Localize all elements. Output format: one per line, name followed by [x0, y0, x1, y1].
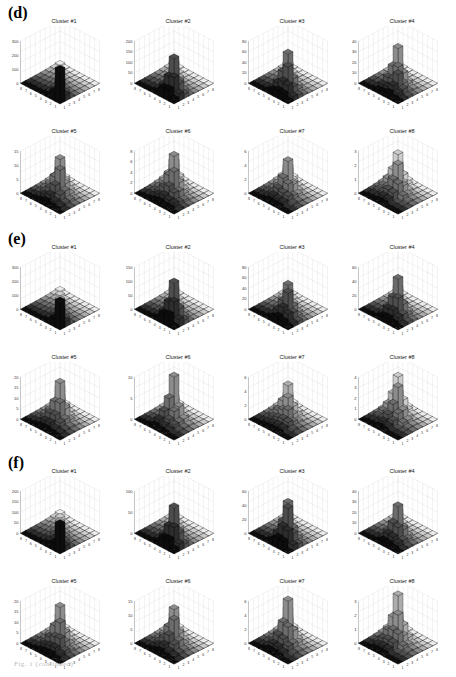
svg-text:1: 1 — [177, 106, 179, 110]
svg-text:2: 2 — [164, 102, 166, 106]
svg-text:5: 5 — [421, 205, 423, 209]
svg-text:5: 5 — [16, 630, 19, 635]
svg-text:1: 1 — [63, 216, 65, 220]
plot-title: Cluster #1 — [8, 468, 120, 474]
svg-text:2: 2 — [130, 180, 133, 185]
svg-text:8: 8 — [212, 198, 214, 202]
svg-text:5: 5 — [35, 544, 37, 548]
plot-e-cluster-2: Cluster #20501001501234567812345678 — [122, 244, 234, 348]
bar3d-chart: 01002003001234567812345678 — [8, 26, 120, 122]
svg-text:60: 60 — [242, 49, 247, 54]
svg-text:7: 7 — [321, 200, 323, 204]
svg-text:4: 4 — [78, 658, 80, 662]
svg-text:6: 6 — [144, 202, 146, 206]
svg-text:20: 20 — [14, 599, 19, 604]
bar3d-chart: 02461234567812345678 — [236, 136, 348, 232]
svg-text:0: 0 — [130, 191, 133, 196]
svg-text:0: 0 — [244, 531, 247, 536]
svg-text:1: 1 — [291, 666, 293, 670]
svg-text:2: 2 — [68, 553, 70, 557]
svg-text:3: 3 — [73, 661, 75, 665]
svg-text:2: 2 — [164, 438, 166, 442]
svg-text:8: 8 — [358, 87, 360, 91]
bar3d-chart: 024681234567812345678 — [122, 136, 234, 232]
svg-text:3: 3 — [411, 661, 413, 665]
svg-text:2: 2 — [50, 328, 52, 332]
svg-text:6: 6 — [88, 319, 90, 323]
svg-text:5: 5 — [373, 654, 375, 658]
svg-text:200: 200 — [12, 279, 19, 284]
svg-text:5: 5 — [263, 94, 265, 98]
svg-text:8: 8 — [436, 314, 438, 318]
svg-text:50: 50 — [14, 520, 19, 525]
svg-text:1: 1 — [169, 441, 171, 445]
svg-text:1: 1 — [283, 105, 285, 109]
svg-text:7: 7 — [93, 316, 95, 320]
svg-text:1: 1 — [291, 106, 293, 110]
svg-text:3: 3 — [187, 327, 189, 331]
svg-text:1: 1 — [354, 406, 357, 411]
plot-title: Cluster #5 — [8, 578, 120, 584]
svg-text:2: 2 — [164, 552, 166, 556]
svg-text:6: 6 — [88, 93, 90, 97]
svg-text:0: 0 — [16, 417, 19, 422]
svg-text:0: 0 — [130, 531, 133, 536]
svg-text:6: 6 — [258, 92, 260, 96]
svg-text:4: 4 — [416, 434, 418, 438]
svg-text:7: 7 — [93, 650, 95, 654]
svg-text:8: 8 — [326, 88, 328, 92]
svg-text:6: 6 — [316, 93, 318, 97]
bar3d-chart: 02040601234567812345678 — [346, 252, 456, 348]
plot-f-cluster-3: Cluster #302040601234567812345678 — [236, 468, 348, 572]
svg-text:4: 4 — [306, 98, 308, 102]
svg-text:6: 6 — [316, 319, 318, 323]
svg-text:2: 2 — [182, 103, 184, 107]
svg-text:4: 4 — [154, 97, 156, 101]
bar3d-chart: 02461234567812345678 — [236, 586, 348, 677]
svg-text:3: 3 — [301, 551, 303, 555]
plot-d-cluster-2: Cluster #20501001502001234567812345678 — [122, 18, 234, 122]
svg-text:7: 7 — [321, 316, 323, 320]
svg-text:0: 0 — [354, 641, 357, 646]
svg-text:6: 6 — [88, 543, 90, 547]
svg-text:3: 3 — [159, 100, 161, 104]
svg-text:7: 7 — [363, 315, 365, 319]
svg-text:6: 6 — [88, 203, 90, 207]
svg-text:6: 6 — [144, 92, 146, 96]
svg-text:4: 4 — [78, 434, 80, 438]
svg-text:7: 7 — [321, 650, 323, 654]
svg-text:5: 5 — [149, 544, 151, 548]
svg-text:4: 4 — [78, 324, 80, 328]
svg-text:0: 0 — [130, 417, 133, 422]
svg-text:8: 8 — [20, 197, 22, 201]
svg-text:2: 2 — [296, 553, 298, 557]
svg-text:3: 3 — [273, 436, 275, 440]
svg-text:8: 8 — [20, 537, 22, 541]
svg-text:5: 5 — [35, 654, 37, 658]
svg-text:2: 2 — [50, 438, 52, 442]
svg-text:2: 2 — [406, 553, 408, 557]
svg-text:0: 0 — [244, 307, 247, 312]
svg-text:1: 1 — [393, 215, 395, 219]
plot-f-cluster-8: Cluster #801231234567812345678 — [346, 578, 456, 677]
svg-text:1: 1 — [63, 442, 65, 446]
svg-text:8: 8 — [98, 314, 100, 318]
svg-text:8: 8 — [326, 538, 328, 542]
svg-text:30: 30 — [352, 49, 357, 54]
svg-text:6: 6 — [426, 429, 428, 433]
bar3d-chart: 0204060801234567812345678 — [236, 252, 348, 348]
svg-text:5: 5 — [197, 321, 199, 325]
bar3d-chart: 02461234567812345678 — [236, 362, 348, 458]
svg-text:10: 10 — [352, 520, 357, 525]
plot-title: Cluster #1 — [8, 18, 120, 24]
svg-text:4: 4 — [244, 389, 247, 394]
svg-text:5: 5 — [421, 545, 423, 549]
svg-text:10: 10 — [128, 375, 133, 380]
svg-text:4: 4 — [244, 613, 247, 618]
bar3d-chart: 0501001501234567812345678 — [122, 252, 234, 348]
svg-text:15: 15 — [14, 385, 19, 390]
svg-text:8: 8 — [248, 423, 250, 427]
svg-text:3: 3 — [301, 437, 303, 441]
svg-text:3: 3 — [159, 660, 161, 664]
svg-text:0: 0 — [16, 81, 19, 86]
